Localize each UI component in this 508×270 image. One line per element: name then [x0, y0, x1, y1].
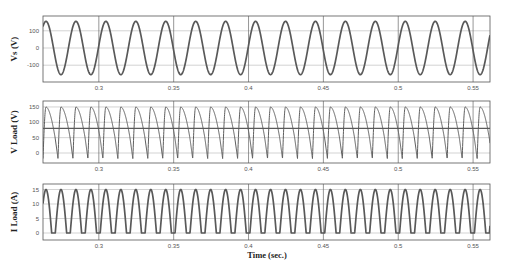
- x-tick-label: 0.5: [394, 85, 403, 91]
- y-tick-label: 50: [32, 135, 39, 141]
- y-tick-label: 10: [32, 201, 39, 207]
- y-tick-label: 15: [32, 187, 39, 193]
- time-xlabel: Time (sec.): [247, 250, 287, 260]
- y-tick-label: 0: [36, 230, 40, 236]
- y-tick-label: 150: [29, 104, 40, 110]
- vs-ylabel: Vs (V): [9, 37, 19, 62]
- x-tick-label: 0.4: [244, 85, 253, 91]
- x-tick-label: 0.35: [168, 166, 180, 172]
- iload-plot: 1510500.30.350.40.450.50.55: [32, 184, 490, 249]
- y-tick-label: 100: [29, 119, 40, 125]
- x-tick-label: 0.45: [318, 243, 330, 249]
- x-tick-label: 0.3: [95, 85, 104, 91]
- y-tick-label: 0: [36, 150, 40, 156]
- x-tick-label: 0.55: [467, 85, 479, 91]
- x-tick-label: 0.5: [394, 166, 403, 172]
- x-tick-label: 0.55: [467, 243, 479, 249]
- x-tick-label: 0.45: [318, 85, 330, 91]
- vload-trace: [43, 107, 490, 159]
- vload-ylabel: V Load (V): [9, 110, 19, 153]
- x-tick-label: 0.3: [95, 166, 104, 172]
- vs-plot: 1000-1000.30.350.40.450.50.55: [27, 16, 490, 91]
- vload-plot: 1501005000.30.350.40.450.50.55: [29, 101, 490, 172]
- x-tick-label: 0.35: [168, 85, 180, 91]
- y-tick-label: 100: [29, 28, 40, 34]
- x-tick-label: 0.5: [394, 243, 403, 249]
- y-tick-label: 0: [36, 45, 40, 51]
- figure: 1000-1000.30.350.40.450.50.55 1501005000…: [0, 0, 508, 270]
- x-tick-label: 0.55: [467, 166, 479, 172]
- x-tick-label: 0.4: [244, 243, 253, 249]
- iload-trace: [43, 190, 490, 234]
- y-tick-label: -100: [27, 62, 40, 68]
- x-tick-label: 0.4: [244, 166, 253, 172]
- x-tick-label: 0.45: [318, 166, 330, 172]
- x-tick-label: 0.3: [95, 243, 104, 249]
- y-tick-label: 5: [36, 216, 40, 222]
- x-tick-label: 0.35: [168, 243, 180, 249]
- iload-ylabel: I Load (A): [9, 192, 19, 233]
